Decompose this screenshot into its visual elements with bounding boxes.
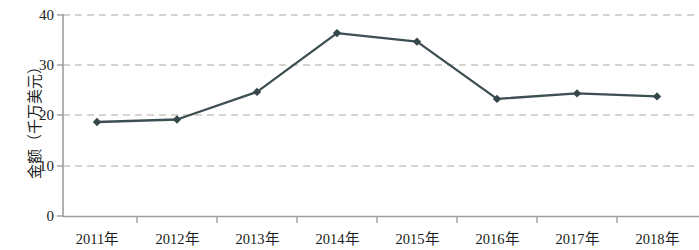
data-point-marker [93,118,101,126]
data-line-series [97,33,657,122]
x-tick-label: 2013年 [217,227,297,248]
x-tick-label: 2015年 [377,227,457,248]
y-axis-ticks [57,15,63,216]
line-chart: 金额（千万美元） 40 30 20 10 0 [0,0,699,250]
plot-area [0,0,699,250]
x-tick-label: 2011年 [57,227,137,248]
data-point-marker [573,89,581,97]
x-tick-label: 2018年 [617,227,697,248]
data-point-marker [653,92,661,100]
x-tick-label: 2017年 [537,227,617,248]
x-tick-label: 2014年 [297,227,377,248]
data-point-marker [173,115,181,123]
x-tick-label: 2016年 [457,227,537,248]
data-point-markers [93,29,661,126]
x-tick-label: 2012年 [137,227,217,248]
